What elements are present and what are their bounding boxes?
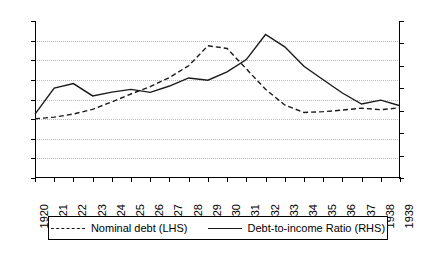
x-axis-tick xyxy=(208,178,209,182)
legend-swatch-dashed-icon xyxy=(51,228,85,229)
x-axis-tick xyxy=(381,178,382,182)
x-axis-tick xyxy=(35,178,36,182)
x-axis-tick-label: 1939 xyxy=(404,204,415,228)
plot-area: 202530354045505560 2030405060708090 1920… xyxy=(35,21,400,178)
y-axis-right-tick xyxy=(400,66,404,67)
x-axis-tick xyxy=(73,178,74,182)
x-axis-tick xyxy=(227,178,228,182)
y-axis-right-tick xyxy=(400,111,404,112)
x-axis-tick xyxy=(93,178,94,182)
x-axis-tick xyxy=(112,178,113,182)
legend-label-nominal-debt: Nominal debt (LHS) xyxy=(91,222,188,234)
y-axis-right-tick xyxy=(400,133,404,134)
x-axis-tick xyxy=(189,178,190,182)
x-axis-tick xyxy=(304,178,305,182)
chart-figure: 202530354045505560 2030405060708090 1920… xyxy=(0,0,437,256)
x-axis-tick xyxy=(54,178,55,182)
x-axis-tick xyxy=(285,178,286,182)
legend-item-debt-to-income-ratio: Debt-to-income Ratio (RHS) xyxy=(208,222,386,234)
x-axis-tick xyxy=(246,178,247,182)
x-axis-tick xyxy=(131,178,132,182)
series-line-nominal-debt xyxy=(35,46,400,119)
x-axis-tick xyxy=(323,178,324,182)
series-lines xyxy=(35,21,400,178)
x-axis-tick xyxy=(266,178,267,182)
x-axis-tick xyxy=(150,178,151,182)
x-axis-tick xyxy=(169,178,170,182)
chart-legend: Nominal debt (LHS) Debt-to-income Ratio … xyxy=(48,216,388,240)
x-axis-tick xyxy=(342,178,343,182)
y-axis-right-tick xyxy=(400,43,404,44)
x-axis-tick xyxy=(400,178,401,182)
y-axis-right-tick xyxy=(400,156,404,157)
y-axis-right-tick xyxy=(400,88,404,89)
y-axis-right-tick xyxy=(400,21,404,22)
x-axis-tick xyxy=(362,178,363,182)
legend-swatch-solid-icon xyxy=(208,228,242,229)
legend-label-debt-to-income-ratio: Debt-to-income Ratio (RHS) xyxy=(248,222,386,234)
legend-item-nominal-debt: Nominal debt (LHS) xyxy=(51,222,188,234)
